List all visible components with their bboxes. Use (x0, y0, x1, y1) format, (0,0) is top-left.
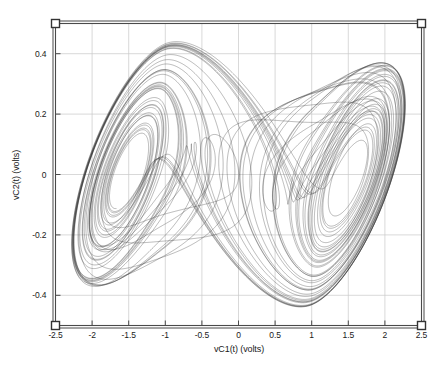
chart-figure: -2.5-2-1.5-1-0.500.511.522.5 0.40.20-0.2… (0, 0, 446, 369)
x-tick-label: 0.5 (269, 330, 281, 340)
y-tick-label: -0.2 (0, 230, 47, 240)
x-tick-label: -2 (88, 330, 95, 340)
resize-handle-bottom-right[interactable] (418, 322, 426, 330)
resize-handle-top-left[interactable] (52, 20, 60, 28)
x-tick-label: -0.5 (195, 330, 209, 340)
y-tick-label: 0.2 (0, 109, 47, 119)
y-tick-label: -0.4 (0, 290, 47, 300)
phase-portrait-plot (0, 0, 446, 369)
x-tick-label: 1.5 (343, 330, 355, 340)
y-tick-label: 0 (0, 170, 47, 180)
x-tick-label: -1 (162, 330, 169, 340)
y-axis-title: vC2(t) (volts) (11, 150, 21, 200)
y-tick-label: 0.4 (0, 49, 47, 59)
x-tick-label: 0 (236, 330, 241, 340)
x-tick-label: 1 (309, 330, 314, 340)
x-axis-title: vC1(t) (volts) (214, 344, 264, 354)
resize-handle-top-right[interactable] (418, 20, 426, 28)
resize-handle-bottom-left[interactable] (52, 322, 60, 330)
x-tick-label: 2 (383, 330, 388, 340)
x-tick-label: -1.5 (122, 330, 136, 340)
x-tick-label: -2.5 (48, 330, 62, 340)
x-tick-label: 2.5 (416, 330, 428, 340)
